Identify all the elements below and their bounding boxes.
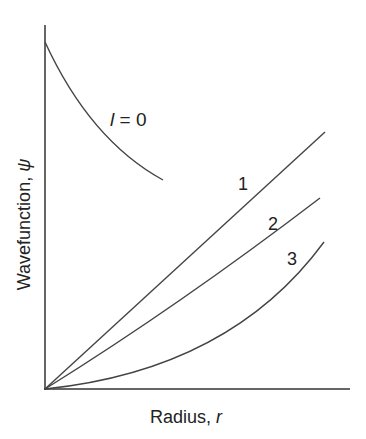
x-axis-label-text: Radius, — [150, 407, 216, 427]
wavefunction-plot — [0, 0, 366, 439]
curve-l1 — [45, 132, 325, 389]
y-axis-label-var: ψ — [14, 159, 34, 172]
label-curve-2: 2 — [268, 215, 278, 233]
y-axis-label: Wavefunction, ψ — [14, 125, 35, 325]
x-axis-label-var: r — [216, 407, 222, 427]
label-l0-rest: = 0 — [114, 109, 146, 130]
label-curve-1: 1 — [238, 175, 248, 193]
label-l0: l = 0 — [110, 110, 146, 129]
x-axis-label: Radius, r — [150, 408, 222, 426]
curve-l3 — [45, 242, 324, 389]
y-axis-label-text: Wavefunction, — [14, 172, 34, 290]
label-curve-3: 3 — [287, 250, 297, 268]
